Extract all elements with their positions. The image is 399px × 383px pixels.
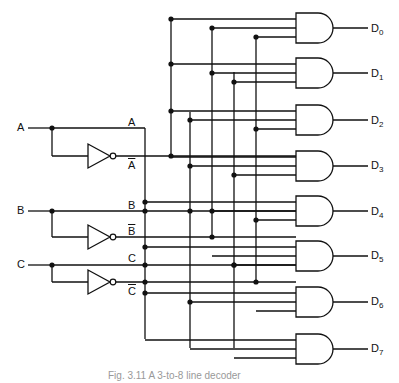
junction-dot — [142, 279, 147, 284]
junction-dot — [209, 25, 214, 30]
junction-dot — [142, 290, 147, 295]
junction-dot — [168, 153, 173, 158]
junction-dot — [187, 299, 192, 304]
line-label-c-bar: C — [128, 286, 136, 297]
input-label-a: A — [17, 122, 24, 133]
junction-dot — [168, 108, 173, 113]
junction-dot — [209, 70, 214, 75]
inverter-bubble-icon — [110, 153, 116, 159]
inverter-icon — [88, 144, 110, 168]
line-label-c: C — [128, 253, 136, 264]
figure-caption: Fig. 3.11 A 3-to-8 line decoder — [108, 370, 241, 381]
output-label-d5: D5 — [371, 250, 383, 264]
junction-dot — [187, 208, 192, 213]
output-label-d1: D1 — [371, 68, 383, 82]
junction-dot — [253, 34, 258, 39]
junction-dot — [209, 234, 214, 239]
junction-dot — [187, 117, 192, 122]
line-label-b-bar: B — [128, 226, 135, 237]
input-label-b: B — [17, 205, 24, 216]
junction-dot — [142, 199, 147, 204]
and-gate-icon — [296, 13, 333, 43]
output-label-d0: D0 — [371, 23, 383, 37]
junction-dot — [253, 279, 258, 284]
line-label-a: A — [128, 117, 135, 128]
and-gate-icon — [296, 241, 333, 271]
output-label-d4: D4 — [371, 206, 383, 220]
junction-dot — [168, 16, 173, 21]
junction-dot — [231, 79, 236, 84]
junction-dot — [142, 244, 147, 249]
junction-dot — [168, 61, 173, 66]
inverter-bubble-icon — [110, 234, 116, 240]
and-gate-icon — [296, 58, 333, 88]
input-label-c: C — [17, 259, 25, 270]
line-label-b: B — [128, 200, 135, 211]
and-gate-icon — [296, 196, 333, 226]
line-label-a-bar: A — [128, 160, 135, 171]
inverter-bubble-icon — [110, 279, 116, 285]
junction-dot — [253, 217, 258, 222]
output-label-d2: D2 — [371, 115, 383, 129]
junction-dot — [142, 262, 147, 267]
inverter-icon — [88, 270, 110, 294]
junction-dot — [187, 163, 192, 168]
and-gate-icon — [296, 151, 333, 181]
junction-dot — [231, 172, 236, 177]
and-gate-icon — [296, 105, 333, 135]
junction-dot — [231, 262, 236, 267]
output-label-d3: D3 — [371, 160, 383, 174]
output-label-d7: D7 — [371, 343, 383, 357]
junction-dot — [253, 126, 258, 131]
junction-dot — [142, 208, 147, 213]
output-label-d6: D6 — [371, 296, 383, 310]
inverter-icon — [88, 225, 110, 249]
and-gate-icon — [296, 334, 333, 364]
junction-dot — [209, 208, 214, 213]
and-gate-icon — [296, 287, 333, 317]
